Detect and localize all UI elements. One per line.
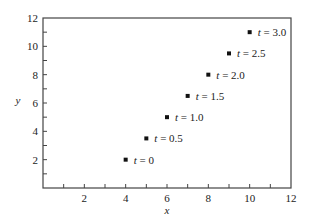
data-point-label: t = 2.0 (216, 69, 245, 81)
x-tick-label: 8 (206, 192, 212, 204)
data-point-marker (227, 51, 231, 55)
data-point-label: t = 1.0 (175, 111, 204, 123)
x-tick-label: 12 (286, 192, 297, 204)
x-tick-label: 6 (164, 192, 170, 204)
x-tick-label: 4 (123, 192, 129, 204)
y-tick-label: 12 (27, 12, 38, 24)
data-point-label: t = 0.5 (154, 132, 183, 144)
data-point-label: t = 3.0 (258, 26, 287, 38)
axes (43, 18, 291, 188)
y-tick-label: 8 (33, 69, 39, 81)
data-point-label: t = 0 (134, 154, 155, 166)
data-point-marker (186, 94, 190, 98)
x-axis-label: x (164, 204, 170, 216)
data-point-marker (165, 115, 169, 119)
y-tick-label: 10 (27, 40, 39, 52)
x-tick-label: 2 (82, 192, 88, 204)
y-axis-label: y (15, 94, 21, 106)
y-tick-label: 6 (33, 97, 39, 109)
plot-frame (43, 18, 291, 188)
y-tick-label: 4 (33, 125, 39, 137)
x-tick-label: 10 (244, 192, 256, 204)
chart-container: 2468101224681012 t = 0t = 0.5t = 1.0t = … (0, 0, 311, 224)
data-point-marker (124, 158, 128, 162)
data-point-marker (248, 30, 252, 34)
ticks: 2468101224681012 (27, 12, 297, 204)
data-point-label: t = 2.5 (237, 47, 266, 59)
y-tick-label: 2 (33, 154, 39, 166)
data-point-label: t = 1.5 (196, 90, 225, 102)
data-point-marker (206, 73, 210, 77)
data-points: t = 0t = 0.5t = 1.0t = 1.5t = 2.0t = 2.5… (124, 26, 287, 166)
scatter-plot: 2468101224681012 t = 0t = 0.5t = 1.0t = … (0, 0, 311, 224)
data-point-marker (144, 136, 148, 140)
